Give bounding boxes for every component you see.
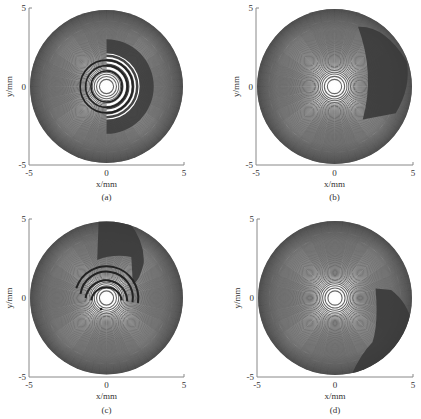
y-tick-label: 5 bbox=[250, 214, 255, 224]
x-tick-label: 5 bbox=[411, 380, 416, 390]
y-axis-label: y/mm bbox=[4, 76, 14, 97]
y-tick-label: 0 bbox=[22, 293, 27, 303]
panel-c: 50-5-505x/mmy/mm(c) bbox=[4, 214, 187, 415]
x-tick-label: 5 bbox=[182, 168, 187, 178]
x-tick-label: 0 bbox=[104, 168, 109, 178]
x-axis-label: x/mm bbox=[324, 179, 345, 189]
y-axis-label: y/mm bbox=[232, 287, 242, 308]
panel-b: 50-5-505x/mmy/mm(b) bbox=[231, 3, 416, 202]
figure: 50-5-505x/mmy/mm(a) 50-5-505x/mmy/mm(b) … bbox=[0, 0, 421, 419]
x-tick-label: 0 bbox=[332, 168, 337, 178]
y-tick-label: 0 bbox=[250, 293, 255, 303]
y-tick-label: 5 bbox=[249, 3, 254, 13]
y-axis-label: y/mm bbox=[4, 287, 14, 308]
panel-d: 50-5-505x/mmy/mm(d) bbox=[232, 214, 416, 415]
panel-a: 50-5-505x/mmy/mm(a) bbox=[4, 3, 187, 202]
y-tick-label: 5 bbox=[22, 214, 27, 224]
y-tick-label: 0 bbox=[22, 82, 27, 92]
y-tick-label: 0 bbox=[249, 82, 254, 92]
x-tick-label: 0 bbox=[333, 380, 338, 390]
x-tick-label: 5 bbox=[182, 380, 187, 390]
x-axis-label: x/mm bbox=[96, 391, 117, 401]
panel-caption: (b) bbox=[329, 192, 340, 202]
panel-caption: (c) bbox=[102, 405, 112, 415]
y-tick-label: 5 bbox=[22, 3, 27, 13]
panel-caption: (d) bbox=[330, 405, 341, 415]
x-axis-label: x/mm bbox=[324, 391, 345, 401]
panel-caption: (a) bbox=[102, 192, 112, 202]
x-axis-label: x/mm bbox=[96, 179, 117, 189]
y-axis-label: y/mm bbox=[231, 76, 241, 97]
x-tick-label: -5 bbox=[25, 380, 33, 390]
x-tick-label: 5 bbox=[411, 168, 416, 178]
x-tick-label: -5 bbox=[25, 168, 33, 178]
x-tick-label: -5 bbox=[253, 380, 261, 390]
x-tick-label: 0 bbox=[104, 380, 109, 390]
x-tick-label: -5 bbox=[252, 168, 260, 178]
